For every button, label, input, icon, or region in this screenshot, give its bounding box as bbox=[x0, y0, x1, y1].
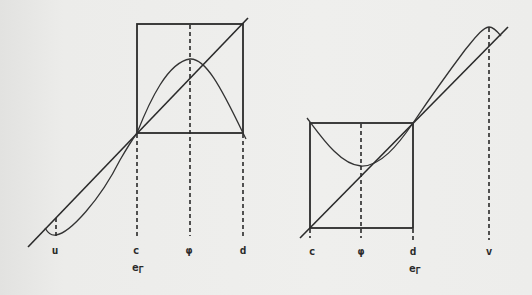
right-label-v: v bbox=[486, 246, 493, 257]
right-e-subscript: Γ bbox=[416, 266, 421, 276]
left-label-d: d bbox=[240, 245, 247, 256]
right-label-d: d bbox=[410, 246, 417, 257]
left-label-u: u bbox=[52, 245, 59, 256]
left-diagram bbox=[28, 18, 248, 247]
left-label-c: c bbox=[133, 245, 140, 256]
diagram-svg bbox=[0, 0, 532, 295]
right-label-e-gamma: eΓ bbox=[409, 263, 421, 274]
right-diagonal-line bbox=[300, 27, 508, 238]
figure-canvas: u c φ d eΓ c φ d v eΓ bbox=[0, 0, 532, 295]
right-e-main: e bbox=[409, 262, 416, 275]
right-diagram bbox=[300, 27, 508, 240]
left-map-curve bbox=[45, 59, 246, 235]
left-label-e-gamma: eΓ bbox=[132, 262, 144, 273]
left-label-phi: φ bbox=[186, 245, 193, 256]
right-label-phi: φ bbox=[358, 246, 365, 257]
left-e-subscript: Γ bbox=[139, 265, 144, 275]
right-label-c: c bbox=[309, 246, 316, 257]
left-e-main: e bbox=[132, 261, 139, 274]
right-map-curve bbox=[307, 27, 501, 166]
